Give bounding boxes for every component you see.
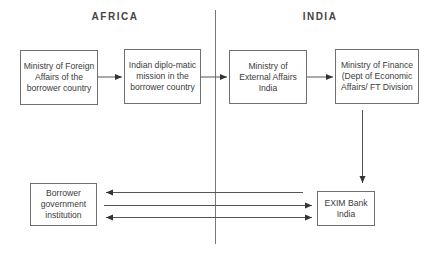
- mofa-borrower-box: Ministry of Foreign Affairs of the borro…: [20, 50, 98, 105]
- mea-india-box: Ministry of External Affairs India: [229, 50, 307, 104]
- indian-mission-label: Indian diplo-matic mission in the borrow…: [127, 60, 198, 93]
- borrower-institution-box: Borrower government institution: [30, 183, 97, 226]
- mofa-borrower-label: Ministry of Foreign Affairs of the borro…: [23, 61, 95, 94]
- mof-india-box: Ministry of Finance (Dept of Economic Af…: [335, 49, 419, 104]
- mof-india-label: Ministry of Finance (Dept of Economic Af…: [338, 60, 416, 93]
- borrower-institution-label: Borrower government institution: [33, 188, 94, 221]
- exim-bank-box: EXIM Bank India: [317, 191, 375, 226]
- indian-mission-box: Indian diplo-matic mission in the borrow…: [124, 49, 201, 104]
- exim-bank-label: EXIM Bank India: [320, 198, 372, 220]
- mea-india-label: Ministry of External Affairs India: [232, 61, 304, 94]
